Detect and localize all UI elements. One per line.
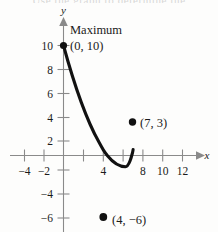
endpoint-coordinate-label: (7, 3) bbox=[140, 116, 167, 130]
y-tick-label--4: −4 bbox=[41, 188, 53, 200]
y-axis-arrowhead bbox=[59, 17, 68, 26]
y-tick-label--6: −6 bbox=[41, 212, 53, 224]
y-tick-label-10: 10 bbox=[42, 40, 54, 52]
graph-figure: −4 −2 4 8 10 12 10 8 6 4 2 −4 −6 x y Max… bbox=[0, 0, 218, 232]
x-tick-label--4: −4 bbox=[18, 165, 30, 177]
y-tick-label-6: 6 bbox=[47, 88, 53, 100]
y-tick-label-2: 2 bbox=[47, 135, 53, 147]
parabola-curve bbox=[64, 46, 134, 167]
point-vertex-dot bbox=[99, 213, 107, 221]
y-tick-label-8: 8 bbox=[47, 64, 53, 76]
maximum-point-label: (0, 10) bbox=[70, 39, 103, 53]
x-tick-label-10: 10 bbox=[157, 165, 169, 177]
y-tick-label-4: 4 bbox=[47, 112, 53, 124]
x-tick-label-4: 4 bbox=[100, 165, 106, 177]
y-axis-label: y bbox=[60, 4, 66, 16]
x-tick-label--2: −2 bbox=[38, 165, 50, 177]
x-tick-label-12: 12 bbox=[177, 165, 189, 177]
point-endpoint-dot bbox=[129, 118, 136, 125]
x-tick-label-8: 8 bbox=[140, 165, 146, 177]
point-max-dot bbox=[60, 42, 67, 49]
maximum-label: Maximum bbox=[70, 23, 122, 37]
x-axis-label: x bbox=[204, 149, 210, 161]
coordinate-plane-svg: −4 −2 4 8 10 12 10 8 6 4 2 −4 −6 x y Max… bbox=[0, 0, 218, 232]
cropped-heading-bottom: of the function bbox=[0, 231, 218, 232]
vertex-coordinate-label: (4, −6) bbox=[112, 213, 146, 227]
